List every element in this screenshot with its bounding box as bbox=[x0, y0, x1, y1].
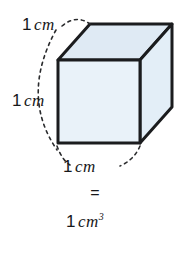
label-depth-unit: cm bbox=[34, 15, 55, 34]
label-width-1cm: 1cm bbox=[63, 158, 96, 175]
cube-front-face bbox=[58, 60, 140, 143]
bottom-right-guide-arc bbox=[120, 146, 140, 166]
label-depth-number: 1 bbox=[22, 15, 34, 34]
equals-sign: = bbox=[88, 186, 102, 200]
label-height-unit: cm bbox=[24, 91, 45, 110]
label-height-1cm: 1cm bbox=[12, 92, 45, 109]
top-edge-guide-arc bbox=[62, 19, 90, 26]
label-volume-1cm3: 1cm3 bbox=[66, 212, 104, 230]
label-volume-unit: cm bbox=[78, 212, 99, 231]
label-volume-number: 1 bbox=[66, 212, 78, 231]
label-width-unit: cm bbox=[75, 157, 96, 176]
label-width-number: 1 bbox=[63, 157, 75, 176]
label-depth-1cm: 1cm bbox=[22, 16, 55, 33]
label-volume-exponent: 3 bbox=[99, 211, 105, 222]
unit-cube-diagram: 1cm 1cm 1cm = 1cm3 bbox=[0, 0, 189, 268]
left-edge-guide-arc bbox=[38, 30, 57, 150]
label-height-number: 1 bbox=[12, 91, 24, 110]
